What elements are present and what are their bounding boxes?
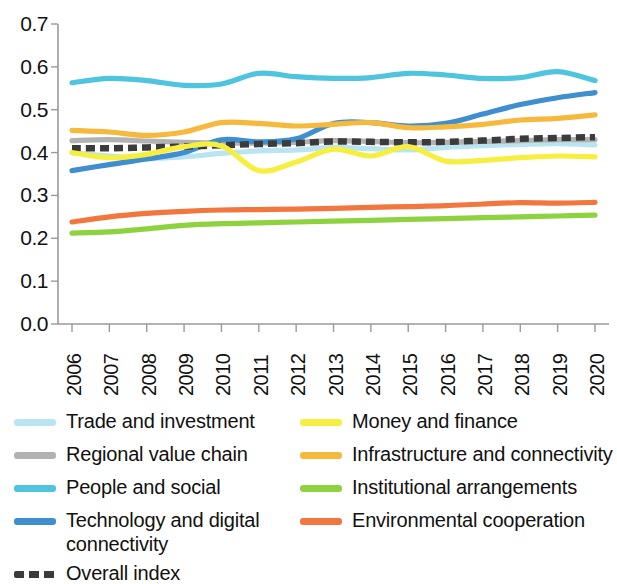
y-axis-tick-label: 0.7 xyxy=(0,13,48,34)
plot-svg xyxy=(0,0,617,340)
plot-area: 0.00.10.20.30.40.50.60.7 200620072008200… xyxy=(0,0,617,340)
legend-item[interactable]: Infrastructure and connectivity xyxy=(300,441,617,470)
legend-color-swatch xyxy=(14,485,56,492)
series-line xyxy=(72,115,595,136)
x-axis-tick-label: 2008 xyxy=(139,354,159,397)
legend-item[interactable]: Institutional arrangements xyxy=(300,474,617,503)
x-axis-tick-label: 2014 xyxy=(363,354,383,397)
y-axis-tick-label: 0.2 xyxy=(0,227,48,248)
x-axis-tick-label: 2007 xyxy=(101,354,121,397)
legend-item-label: Regional value chain xyxy=(66,441,248,467)
legend-color-swatch xyxy=(300,485,342,492)
series-line xyxy=(72,72,595,86)
legend-column-left: Trade and investmentRegional value chain… xyxy=(14,408,314,584)
y-axis-tick-label: 0.1 xyxy=(0,270,48,291)
legend-item[interactable]: Overall index xyxy=(14,560,314,584)
legend-item-label: Infrastructure and connectivity xyxy=(352,441,613,467)
x-axis-tick-label: 2016 xyxy=(438,354,458,397)
legend-color-swatch xyxy=(14,518,56,525)
x-axis-tick-label: 2012 xyxy=(288,354,308,397)
x-axis-tick-label: 2009 xyxy=(176,354,196,397)
legend-color-swatch xyxy=(14,419,56,426)
x-axis-tick-label: 2017 xyxy=(475,354,495,397)
x-axis-tick-label: 2015 xyxy=(400,354,420,397)
legend-item[interactable]: Regional value chain xyxy=(14,441,314,470)
y-axis-tick-label: 0.6 xyxy=(0,56,48,77)
legend-item-label: People and social xyxy=(66,474,221,500)
legend-item-label: Overall index xyxy=(66,560,180,584)
legend-item[interactable]: People and social xyxy=(14,474,314,503)
series-group xyxy=(72,72,595,234)
y-axis-tick-label: 0.0 xyxy=(0,313,48,334)
y-axis-tick-label: 0.5 xyxy=(0,99,48,120)
x-axis-tick-label: 2013 xyxy=(326,354,346,397)
legend-item[interactable]: Trade and investment xyxy=(14,408,314,437)
legend-item-label: Trade and investment xyxy=(66,408,255,434)
legend-color-swatch xyxy=(300,419,342,426)
legend-color-swatch xyxy=(300,452,342,459)
legend-color-swatch xyxy=(14,452,56,459)
legend-item[interactable]: Technology and digital connectivity xyxy=(14,507,314,556)
legend-item-label: Environmental cooperation xyxy=(352,507,585,533)
series-line xyxy=(72,140,595,144)
x-axis-tick-label: 2018 xyxy=(512,354,532,397)
legend-item-label: Technology and digital connectivity xyxy=(66,507,314,556)
series-line xyxy=(72,215,595,233)
x-axis-tick-label: 2011 xyxy=(251,355,271,396)
x-axis-tick-label: 2019 xyxy=(550,354,570,397)
x-axis-tick-label: 2020 xyxy=(587,354,607,397)
y-axis-tick-label: 0.4 xyxy=(0,142,48,163)
x-axis-tick-label: 2010 xyxy=(213,354,233,397)
chart-legend: Trade and investmentRegional value chain… xyxy=(0,408,617,575)
legend-item-label: Money and finance xyxy=(352,408,518,434)
axis-group xyxy=(51,24,609,332)
legend-item[interactable]: Environmental cooperation xyxy=(300,507,617,536)
legend-item[interactable]: Money and finance xyxy=(300,408,617,437)
legend-color-swatch xyxy=(14,571,56,578)
y-axis-tick-label: 0.3 xyxy=(0,184,48,205)
legend-column-right: Money and financeInfrastructure and conn… xyxy=(300,408,617,540)
x-axis-tick-label: 2006 xyxy=(64,354,84,397)
legend-item-label: Institutional arrangements xyxy=(352,474,577,500)
legend-color-swatch xyxy=(300,518,342,525)
